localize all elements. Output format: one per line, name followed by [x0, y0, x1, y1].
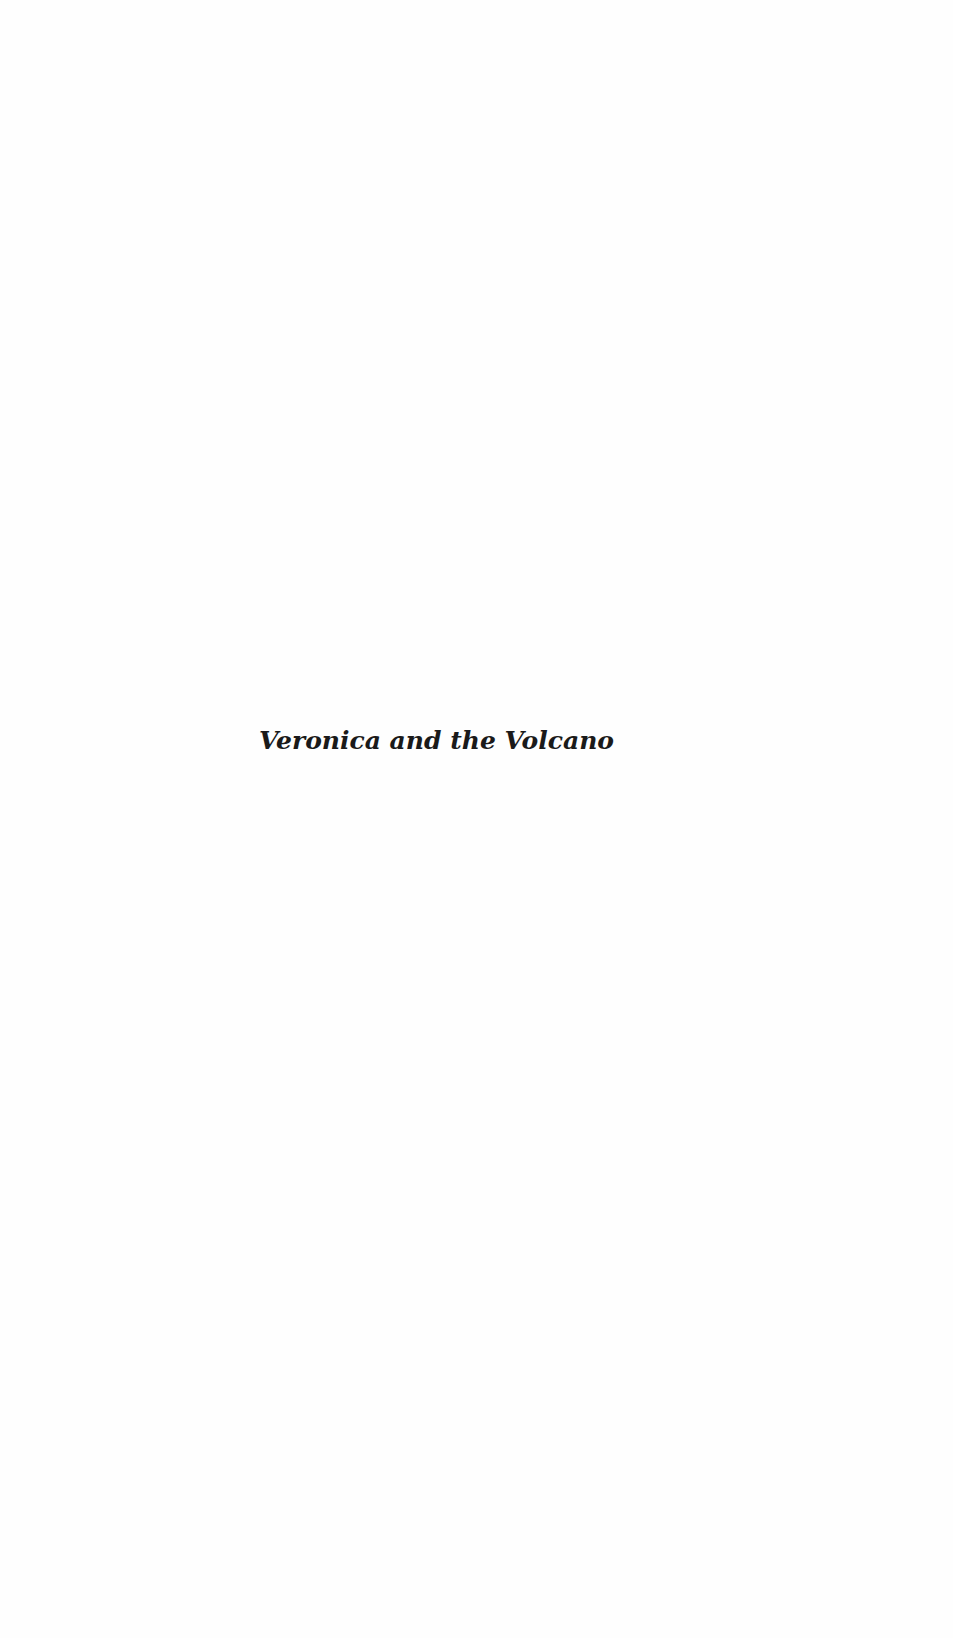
book-title: Veronica and the Volcano	[259, 723, 614, 759]
book-page: Veronica and the Volcano	[0, 0, 953, 1638]
half-title: Veronica and the Volcano	[0, 723, 953, 759]
